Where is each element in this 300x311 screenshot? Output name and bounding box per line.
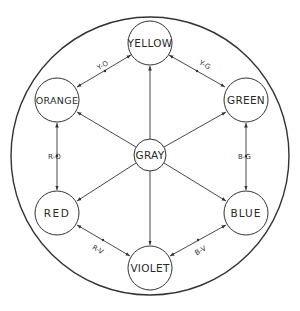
node-blue: BLUE (224, 191, 268, 235)
node-label-gray: GRAY (136, 149, 165, 161)
color-wheel-diagram: Y-O Y-G R-O B-G R-V B-V YELLOW ORANGE GR… (0, 0, 300, 311)
node-gray: GRAY (134, 139, 166, 171)
node-label-green: GREEN (227, 94, 265, 106)
edge-label-yg: Y-G (197, 58, 212, 71)
node-label-orange: ORANGE (36, 95, 78, 106)
node-orange: ORANGE (35, 78, 79, 122)
node-violet: VIOLET (128, 246, 172, 290)
node-label-violet: VIOLET (130, 262, 170, 274)
edge-label-ro: R-O (48, 153, 61, 161)
node-green: GREEN (224, 78, 268, 122)
spoke-gray-blue (164, 163, 226, 201)
spoke-gray-red (77, 163, 136, 201)
edge-label-bg: B-G (238, 153, 251, 161)
edge-label-rv: R-V (91, 244, 105, 257)
node-red: RED (35, 191, 79, 235)
edge-label-yo: Y-O (95, 59, 110, 73)
node-label-blue: BLUE (231, 207, 262, 219)
node-label-yellow: YELLOW (127, 37, 173, 49)
spoke-gray-orange (77, 112, 136, 147)
node-label-red: RED (44, 207, 71, 219)
edge-label-bv: B-V (194, 244, 208, 257)
spoke-gray-green (164, 112, 226, 147)
node-yellow: YELLOW (127, 21, 173, 65)
